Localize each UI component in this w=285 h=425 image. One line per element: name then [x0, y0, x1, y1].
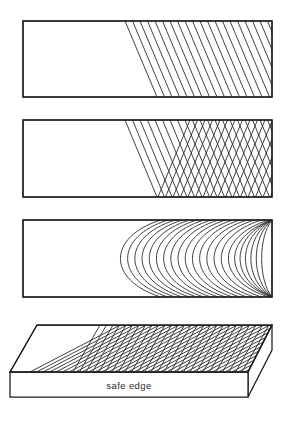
hatch-line-primary: [275, 21, 284, 97]
hatch-line-secondary: [278, 120, 284, 197]
safe-edge-figure: safe edge: [0, 0, 284, 425]
hatch-line-primary: [283, 21, 285, 97]
block-hatch-line-b: [284, 325, 285, 372]
hatch-line-primary: [283, 120, 285, 197]
safe-edge-label: safe edge: [106, 380, 151, 391]
panel-three-dimensional-block: safe edge: [10, 325, 284, 397]
panel-curved-arcs: [23, 220, 272, 297]
block-hatch-line-b: [277, 325, 284, 372]
hatch-line-primary: [275, 120, 284, 197]
panel-cross-hatch: [23, 120, 284, 197]
panel-single-hatch: [23, 21, 284, 97]
